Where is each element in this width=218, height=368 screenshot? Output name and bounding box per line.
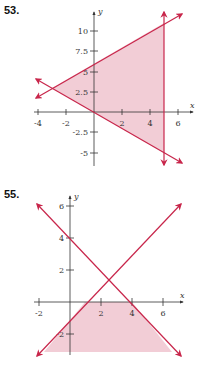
x-tick: 6	[175, 119, 180, 128]
y-tick: 4	[59, 234, 64, 243]
chart-53: -4 -2 2 4 6 10 7.5 5 2.5 -2.5 -5 x y	[0, 0, 218, 184]
y-tick: 6	[59, 202, 64, 211]
chart-55: -2 2 4 6 6 4 2 -2 x y	[0, 184, 218, 368]
y-tick: -2.5	[73, 128, 88, 137]
x-tick: 2	[119, 119, 124, 128]
y-tick: 2	[59, 266, 64, 275]
x-tick: 4	[129, 309, 134, 318]
y-axis-label: y	[73, 192, 79, 201]
y-axis-label: y	[97, 7, 103, 16]
y-tick: 7.5	[75, 47, 88, 56]
x-tick: 2	[98, 309, 103, 318]
x-axis-label: x	[180, 291, 185, 300]
y-tick: -5	[80, 149, 88, 158]
x-tick: -4	[34, 119, 42, 128]
x-tick: 4	[147, 119, 152, 128]
x-tick: 6	[160, 309, 165, 318]
x-tick: -2	[62, 119, 70, 128]
x-axis-label: x	[190, 101, 195, 110]
x-tick: -2	[35, 309, 43, 318]
shaded-region	[52, 23, 164, 153]
y-tick: 2.5	[75, 88, 88, 97]
y-tick: 10	[78, 27, 88, 36]
